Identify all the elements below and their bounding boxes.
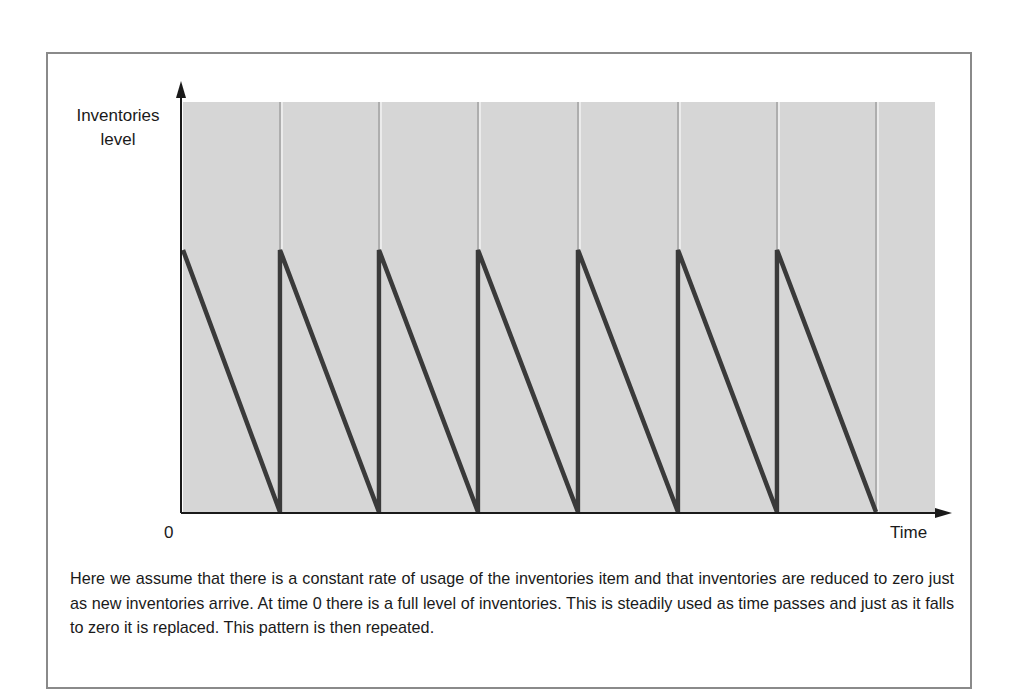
inventory-sawtooth-chart: [0, 0, 1011, 560]
x-axis-arrow-icon: [935, 508, 952, 518]
y-axis-label-line1: Inventories: [58, 104, 178, 128]
y-axis-arrow-icon: [176, 81, 186, 98]
plot-background: [183, 102, 935, 512]
x-axis-origin-label: 0: [164, 523, 173, 543]
y-axis-label-line2: level: [58, 128, 178, 152]
x-axis-label: Time: [890, 523, 927, 543]
y-axis-label: Inventories level: [58, 104, 178, 152]
figure-caption: Here we assume that there is a constant …: [70, 566, 954, 640]
